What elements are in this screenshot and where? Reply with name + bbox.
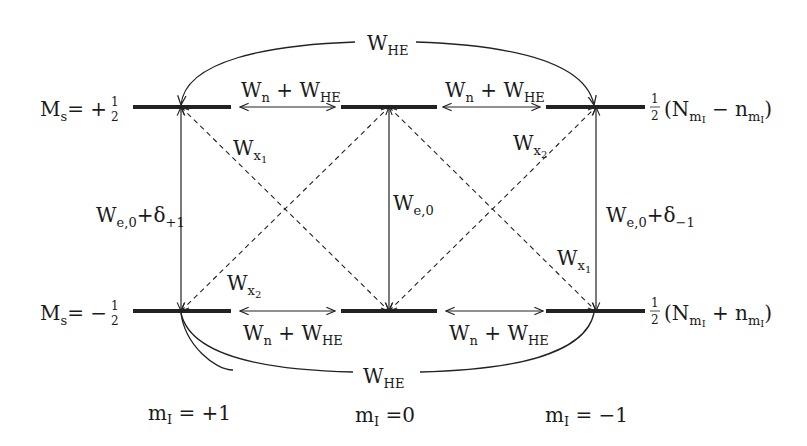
- cross-labels: Wx1 Wx2 Wx2 Wx1: [227, 131, 591, 300]
- upper-population-label: 1 2 (NmI − nmI): [650, 92, 772, 125]
- svg-text:(NmI − nmI): (NmI − nmI): [664, 97, 772, 125]
- svg-text:We,0+δ+1: We,0+δ+1: [96, 203, 185, 230]
- svg-text:Wx2: Wx2: [227, 271, 261, 300]
- svg-text:WHE: WHE: [363, 364, 404, 391]
- bottom-arc-label: WHE: [363, 364, 404, 391]
- energy-level-diagram: WHE WHE Wn + WHE Wn + WHE Wn + WHE Wn + …: [0, 0, 807, 446]
- svg-text:1: 1: [111, 95, 119, 109]
- svg-text:2: 2: [651, 109, 659, 123]
- upper-level-label: Ms= + 1 2: [40, 95, 119, 124]
- lower-population-label: 1 2 (NmI + nmI): [650, 296, 772, 329]
- svg-text:(NmI + nmI): (NmI + nmI): [664, 301, 772, 329]
- svg-text:Wn + WHE: Wn + WHE: [449, 321, 549, 348]
- svg-text:2: 2: [111, 314, 119, 328]
- svg-text:Ms= +: Ms= +: [40, 97, 107, 124]
- svg-text:Wn + WHE: Wn + WHE: [241, 78, 341, 105]
- svg-text:1: 1: [111, 299, 119, 313]
- top-arc-label: WHE: [367, 31, 408, 58]
- svg-text:1: 1: [651, 92, 659, 106]
- svg-text:mI = −1: mI = −1: [545, 403, 628, 429]
- svg-text:mI =0: mI =0: [355, 403, 415, 429]
- svg-text:We,0: We,0: [393, 191, 434, 218]
- column-labels: mI = +1 mI =0 mI = −1: [148, 401, 628, 429]
- svg-text:Ms= −: Ms= −: [40, 301, 107, 328]
- svg-text:2: 2: [651, 313, 659, 327]
- svg-text:Wn + WHE: Wn + WHE: [243, 321, 343, 348]
- vertical-labels: We,0+δ+1 We,0 We,0+δ−1: [96, 191, 695, 230]
- svg-text:2: 2: [111, 110, 119, 124]
- lower-level-label: Ms= − 1 2: [40, 299, 119, 328]
- svg-text:We,0+δ−1: We,0+δ−1: [606, 203, 695, 230]
- svg-text:mI = +1: mI = +1: [148, 401, 231, 427]
- svg-text:1: 1: [651, 296, 659, 310]
- svg-text:Wn + WHE: Wn + WHE: [445, 78, 545, 105]
- svg-text:WHE: WHE: [367, 31, 408, 58]
- svg-text:Wx1: Wx1: [557, 246, 591, 275]
- svg-text:Wx1: Wx1: [233, 136, 267, 165]
- svg-text:Wx2: Wx2: [513, 131, 547, 160]
